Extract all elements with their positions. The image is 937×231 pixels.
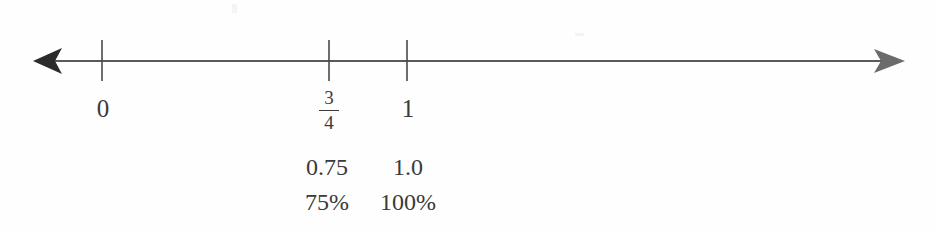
number-line-axis [0, 0, 937, 231]
fraction-denominator: 4 [324, 113, 334, 133]
decimal-value-one: 1.0 [393, 155, 423, 179]
percent-value-three-quarters: 75% [305, 190, 349, 214]
tick-label-three-quarters: 3 4 [319, 88, 339, 133]
tick-label-one: 1 [402, 96, 415, 121]
percent-value-one: 100% [380, 190, 436, 214]
fraction-bar [319, 110, 339, 111]
fraction-numerator: 3 [324, 88, 334, 108]
decimal-value-three-quarters: 0.75 [306, 155, 348, 179]
number-line-figure: 0 3 4 1 0.75 1.0 75% 100% [0, 0, 937, 231]
tick-label-zero: 0 [97, 96, 110, 121]
